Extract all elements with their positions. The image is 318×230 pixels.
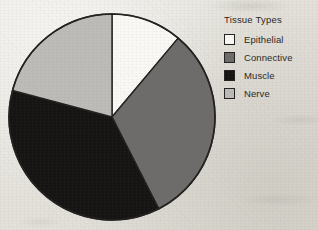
legend-label-muscle: Muscle <box>244 70 275 81</box>
pie-chart-figure: Tissue Types Epithelial Connective Muscl… <box>0 0 318 230</box>
legend-title: Tissue Types <box>224 14 316 25</box>
legend-item-muscle[interactable]: Muscle <box>224 67 316 84</box>
legend-swatch-epithelial <box>224 34 235 45</box>
legend-item-connective[interactable]: Connective <box>224 49 316 66</box>
legend: Tissue Types Epithelial Connective Muscl… <box>224 14 316 103</box>
legend-item-epithelial[interactable]: Epithelial <box>224 31 316 48</box>
legend-swatch-nerve <box>224 88 235 99</box>
legend-item-nerve[interactable]: Nerve <box>224 85 316 102</box>
legend-swatch-connective <box>224 52 235 63</box>
legend-label-epithelial: Epithelial <box>244 34 284 45</box>
legend-label-nerve: Nerve <box>244 88 270 99</box>
legend-label-connective: Connective <box>244 52 293 63</box>
legend-swatch-muscle <box>224 70 235 81</box>
pie-chart <box>8 11 216 223</box>
pie-slice-group <box>9 14 215 220</box>
